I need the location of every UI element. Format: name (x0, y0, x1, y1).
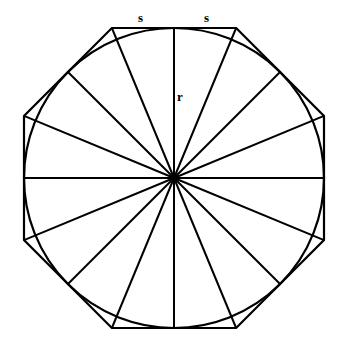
radial-spokes (24, 28, 324, 328)
spoke (68, 178, 174, 284)
label-side-left: s (138, 10, 143, 25)
label-radius: r (177, 89, 183, 104)
spoke (174, 72, 280, 178)
label-side-right: s (204, 10, 209, 25)
spoke (174, 178, 280, 284)
octagon-circle-diagram: s s r (0, 0, 343, 346)
spoke (68, 72, 174, 178)
